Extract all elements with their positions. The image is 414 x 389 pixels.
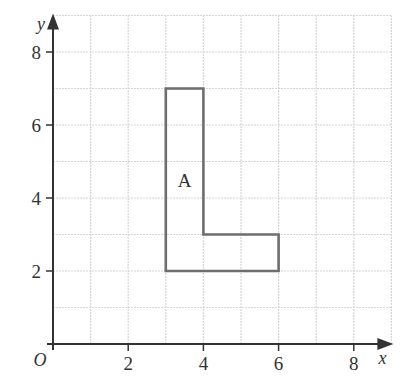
x-tick-label: 8 (349, 353, 359, 374)
axes (46, 14, 393, 352)
y-tick-label: 8 (32, 42, 42, 63)
shape-a: A (166, 89, 279, 272)
grid-lines (53, 16, 391, 345)
coordinate-grid: A 24682468Oxy (0, 0, 414, 389)
axis-tick-labels: 24682468Oxy (32, 14, 387, 375)
y-tick-label: 6 (32, 115, 42, 136)
origin-label: O (34, 350, 47, 370)
shape-label: A (178, 170, 192, 191)
y-tick-label: 2 (32, 261, 42, 282)
y-tick-label: 4 (32, 188, 42, 209)
x-axis-label: x (377, 348, 386, 368)
y-axis-label: y (35, 14, 45, 34)
x-tick-label: 4 (199, 353, 209, 374)
x-tick-label: 6 (274, 353, 284, 374)
x-tick-label: 2 (123, 353, 133, 374)
